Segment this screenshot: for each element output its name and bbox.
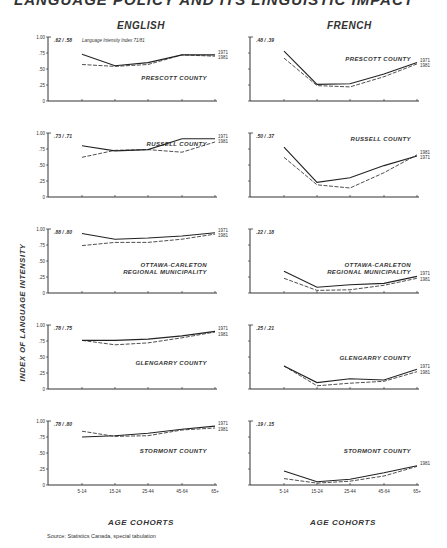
region-label: PRESCOTT COUNTY: [141, 75, 207, 81]
y-tick-label: 1.00: [36, 227, 45, 232]
series-end-label: 1981: [218, 55, 229, 60]
series-end-label: 1981: [420, 150, 431, 155]
series-end-label: 1981: [218, 139, 229, 144]
series-line-1981: [82, 234, 215, 246]
series-line-1981: [82, 55, 215, 67]
y-tick-label: .75: [39, 51, 46, 56]
panel-french-3: .25 / .21GLENGARRY COUNTY19711981: [248, 325, 431, 389]
region-label: OTTAWA-CARLETON: [345, 262, 412, 268]
y-tick-label: 0: [42, 483, 45, 488]
x-tick-label: 45-64: [378, 489, 390, 494]
series-end-label: 1981: [420, 370, 431, 375]
y-tick-label: .50: [39, 259, 46, 264]
y-tick-label: .75: [39, 147, 46, 152]
panel-french-2: .22 / .18OTTAWA-CARLETONREGIONAL MUNICIP…: [248, 229, 431, 293]
y-tick-label: .50: [39, 451, 46, 456]
series-end-label: 1971: [218, 228, 229, 233]
x-tick-label: 15-24: [311, 489, 323, 494]
region-label: STORMONT COUNTY: [344, 448, 412, 454]
series-line-1981: [82, 428, 215, 436]
x-tick-label: 5-14: [279, 489, 289, 494]
series-end-label: 1981: [420, 63, 431, 68]
series-end-label: 1981: [218, 233, 229, 238]
index-label: .50 / .37: [256, 133, 274, 139]
series-end-label: 1971: [420, 58, 431, 63]
region-label: GLENGARRY COUNTY: [339, 355, 411, 361]
series-line-1971: [284, 147, 417, 182]
y-tick-label: .50: [39, 67, 46, 72]
index-label: .78 / .80: [54, 421, 72, 427]
index-label: .22 / .18: [256, 229, 274, 235]
y-tick-label: 0: [42, 387, 45, 392]
y-tick-label: .75: [39, 243, 46, 248]
index-label: .48 / .39: [256, 37, 274, 43]
region-label: OTTAWA-CARLETON: [141, 262, 208, 268]
series-line-1981: [284, 155, 417, 188]
y-tick-label: 1.00: [36, 323, 45, 328]
region-label: PRESCOTT COUNTY: [345, 56, 411, 62]
index-label: .88 / .80: [54, 229, 72, 235]
small-multiples-chart: 0.25.50.751.00.62 / .58Language Intensit…: [0, 0, 447, 548]
x-tick-label: 5-14: [77, 489, 87, 494]
y-tick-label: .50: [39, 163, 46, 168]
series-line-1971: [82, 233, 215, 239]
panel-french-0: .48 / .39PRESCOTT COUNTY19711981: [248, 37, 431, 101]
region-label: STORMONT COUNTY: [140, 448, 208, 454]
x-tick-label: 65+: [413, 489, 421, 494]
series-end-label: 1981: [420, 461, 431, 466]
legend-note: Language Intensity Index 71/81: [82, 38, 145, 43]
panel-english-4: 0.25.50.751.005-1415-2425-4445-6465+.78 …: [36, 419, 228, 494]
panel-french-4: 5-1415-2425-4445-6465+.19 / .15STORMONT …: [248, 421, 431, 494]
y-tick-label: 0: [42, 195, 45, 200]
y-tick-label: .25: [39, 83, 46, 88]
series-end-label: 1971: [218, 50, 229, 55]
series-end-label: 1971: [420, 155, 431, 160]
index-label: .73 / .71: [54, 133, 72, 139]
series-end-label: 1971: [218, 421, 229, 426]
y-tick-label: .25: [39, 275, 46, 280]
series-end-label: 1981: [420, 277, 431, 282]
index-label: .78 / .75: [54, 325, 72, 331]
series-line-1981: [284, 58, 417, 87]
index-label: .19 / .15: [256, 421, 274, 427]
series-end-label: 1971: [218, 134, 229, 139]
region-label: REGIONAL MUNICIPALITY: [123, 269, 207, 275]
series-end-label: 1981: [218, 427, 229, 432]
y-tick-label: 1.00: [36, 131, 45, 136]
y-tick-label: 1.00: [36, 35, 45, 40]
series-end-label: 1971: [420, 364, 431, 369]
y-tick-label: .50: [39, 355, 46, 360]
region-label: RUSSELL COUNTY: [147, 141, 208, 147]
y-tick-label: .75: [39, 435, 46, 440]
y-tick-label: .25: [39, 371, 46, 376]
panel-english-2: 0.25.50.751.00.88 / .80OTTAWA-CARLETONRE…: [36, 227, 228, 296]
x-tick-label: 15-24: [109, 489, 121, 494]
panel-english-0: 0.25.50.751.00.62 / .58Language Intensit…: [36, 35, 228, 104]
y-tick-label: .25: [39, 467, 46, 472]
series-line-1971: [284, 366, 417, 383]
y-tick-label: .25: [39, 179, 46, 184]
x-tick-label: 25-44: [142, 489, 154, 494]
series-end-label: 1971: [218, 326, 229, 331]
panel-english-3: 0.25.50.751.00.78 / .75GLENGARRY COUNTY1…: [36, 323, 228, 392]
x-tick-label: 45-64: [176, 489, 188, 494]
y-tick-label: 1.00: [36, 419, 45, 424]
index-label: .25 / .21: [256, 325, 274, 331]
panel-french-1: .50 / .37RUSSELL COUNTY19811971: [248, 133, 431, 197]
series-end-label: 1971: [420, 271, 431, 276]
y-tick-label: 0: [42, 99, 45, 104]
x-tick-label: 65+: [211, 489, 219, 494]
index-label: .62 / .58: [54, 37, 72, 43]
y-tick-label: 0: [42, 291, 45, 296]
series-end-label: 1981: [218, 332, 229, 337]
series-line-1971: [284, 466, 417, 482]
x-tick-label: 25-44: [344, 489, 356, 494]
y-tick-label: .75: [39, 339, 46, 344]
panel-english-1: 0.25.50.751.00.73 / .71RUSSELL COUNTY197…: [36, 131, 228, 200]
region-label: GLENGARRY COUNTY: [135, 360, 207, 366]
series-line-1981: [284, 466, 417, 483]
region-label: RUSSELL COUNTY: [351, 136, 412, 142]
region-label: REGIONAL MUNICIPALITY: [327, 269, 411, 275]
